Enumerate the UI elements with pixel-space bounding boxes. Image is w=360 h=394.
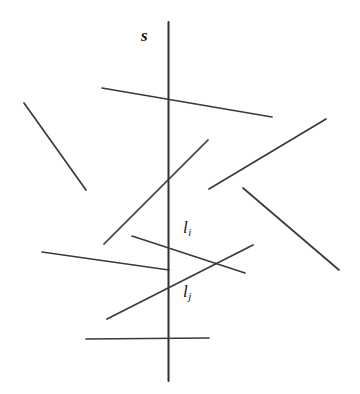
diagram-canvas (0, 0, 360, 394)
segment-right-falling (243, 188, 339, 270)
label-line-i: li (183, 219, 191, 238)
label-line-j: lj (183, 283, 191, 302)
segment-right-rising (209, 119, 326, 189)
segment-top-left-diagonal (24, 103, 86, 190)
label-line-i-subscript: i (188, 226, 191, 238)
label-sweep-line-s: s (141, 27, 148, 44)
label-line-j-subscript: j (188, 290, 191, 302)
segment-bottom-horizontal (86, 338, 209, 339)
segment-center-steep (104, 140, 208, 244)
segment-line-j (107, 245, 253, 319)
line-arrangement-diagram: s li lj (0, 0, 360, 394)
label-sweep-line-s-text: s (141, 26, 148, 45)
segment-left-flat (42, 252, 169, 270)
segment-top-long (102, 88, 272, 117)
